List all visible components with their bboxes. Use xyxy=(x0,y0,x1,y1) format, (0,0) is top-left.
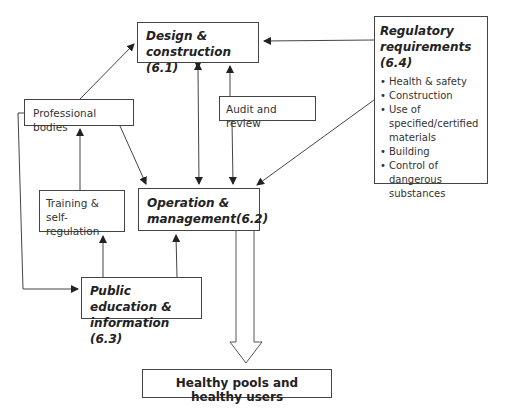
regulatory-item: Construction xyxy=(380,89,482,103)
professional-bodies-node: Professional bodies xyxy=(24,99,134,126)
training-node: Training & self-regulation xyxy=(39,190,125,232)
operation-management-node: Operation & management(6.2) xyxy=(138,188,260,231)
regulatory-item: Control of dangerous substances xyxy=(380,159,482,201)
design-construction-node: Design & construction (6.1) xyxy=(137,22,259,63)
public-education-title: Public education & information (6.3) xyxy=(90,283,193,347)
regulatory-item: Building xyxy=(380,145,482,159)
block-arrow xyxy=(230,231,262,363)
regulatory-item: Use of specified/certified materials xyxy=(380,103,482,145)
audit-review-node: Audit and review xyxy=(219,96,316,121)
regulatory-item: Health & safety xyxy=(380,75,482,89)
design-construction-title: Design & construction (6.1) xyxy=(146,28,250,76)
regulatory-requirements-node: Regulatory requirements (6.4) Health & s… xyxy=(374,16,488,184)
regulatory-list: Health & safety Construction Use of spec… xyxy=(380,75,482,201)
outcome-node: Healthy pools and healthy users xyxy=(142,369,332,398)
operation-title: Operation & management(6.2) xyxy=(147,195,251,227)
public-education-node: Public education & information (6.3) xyxy=(81,277,202,319)
regulatory-title: Regulatory requirements (6.4) xyxy=(380,23,482,71)
